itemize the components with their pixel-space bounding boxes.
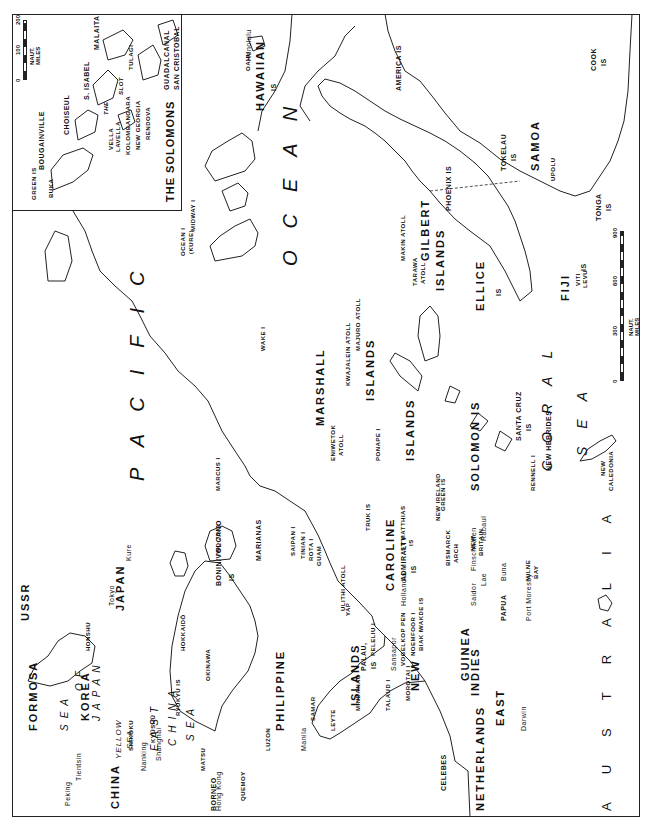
inset-scale-tick-200: 200 (15, 15, 21, 25)
inset-green-is: GREEN IS (31, 167, 37, 200)
label-solomon-is: SOLOMON IS (470, 401, 481, 491)
label-guam: GUAM (316, 546, 322, 566)
label-fiji: FIJI (560, 274, 571, 301)
inset-bougainville-label: BOUGAINVILLE (38, 111, 45, 170)
label-st-matthias-is: IS (408, 539, 414, 546)
label-indies: INDIES (470, 647, 481, 696)
label-ponape: PONAPE I (375, 428, 381, 461)
city-nanking: Nanking (140, 742, 147, 771)
inset-choiseul-label: CHOISEUL (63, 95, 70, 135)
scale-tick-600: 600 (612, 276, 618, 286)
label-pacific: PACIFIC (127, 250, 147, 481)
inset-bougainville (51, 148, 93, 190)
label-upolu: UPOLU (550, 158, 556, 182)
inset-guadalcanal-label: GUADALCANAL (163, 30, 170, 90)
label-vogelkop: VOGELKOP PEN (400, 612, 406, 666)
label-sea-of-japan-3: JAPAN (92, 660, 102, 722)
label-cook: COOK (590, 48, 597, 71)
inset-vella: VELLA (108, 128, 114, 150)
label-peleliu: PELELIU I (370, 623, 376, 656)
label-kwajalein: KWAJALEIN ATOLL (345, 322, 351, 386)
label-kure: (KURE) (188, 230, 194, 254)
label-hawaiian-is: IS (270, 83, 277, 91)
label-samoa: SAMOA (530, 120, 541, 171)
label-levu: LEVU (582, 270, 588, 288)
inset-scale-graphic (23, 20, 27, 80)
label-yap: YAP (345, 603, 351, 616)
label-tokelau: TOKELAU (500, 134, 507, 171)
visayas (222, 183, 248, 211)
label-tarawa: TARAWA (412, 257, 418, 286)
label-marshall: MARSHALL (315, 348, 326, 426)
label-ryukyu: RYUKYU IS (175, 679, 181, 716)
label-marcus: MARCUS I (215, 457, 221, 491)
label-tarawa-atoll: ATOLL (420, 262, 426, 284)
label-new-caledonia: NEW (600, 461, 606, 477)
inset-kolombangara: KOLOMBANGARA (125, 96, 131, 155)
formosa-coast (45, 231, 72, 281)
label-santa-cruz-is: IS (525, 423, 532, 431)
label-bismarck: BISMARCK (445, 530, 451, 566)
mindanao-coast (205, 133, 255, 181)
label-st-matthias: ST MATTHIAS (400, 506, 406, 551)
label-midway: MIDWAY I (190, 200, 196, 231)
label-rennell: RENNELL I (530, 455, 536, 491)
label-noemfoor: NOEMFOOR I (410, 612, 416, 656)
label-sea-of-japan-1: SEA (60, 693, 70, 731)
label-philippine: PHILIPPINE (275, 650, 286, 731)
city-sansapor: Sansapor (390, 637, 397, 671)
label-america-is: AMERICA IS (395, 45, 402, 91)
label-luzon: LUZON (265, 728, 271, 751)
label-palau: PALAU, (360, 642, 367, 671)
label-eniwetok: ENIWETOK (330, 425, 336, 461)
label-new-britain: NEW (470, 536, 476, 552)
label-samar: SAMAR (310, 697, 316, 722)
map-canvas: PACIFIC OCEAN SEA OF JAPAN YELLOW SEA EA… (0, 0, 646, 831)
australia-coast (385, 14, 632, 196)
label-ellice-is: IS (495, 288, 502, 296)
label-yellow-sea-1: YELLOW (115, 720, 123, 759)
label-tonga-is: IS (605, 203, 612, 211)
city-darwin: Darwin (520, 706, 527, 731)
inset-rendova: RENDOVA (145, 107, 151, 140)
scale-bar-graphic (620, 231, 624, 381)
label-eniwetok-atoll: ATOLL (338, 434, 344, 456)
label-australia: AUSTRALIA (600, 487, 613, 811)
label-oahu: OAHU (245, 51, 251, 71)
label-makin: MAKIN ATOLL (400, 215, 406, 261)
label-milne-bay: BAY (533, 565, 539, 579)
label-matsu: MATSU (200, 748, 206, 771)
label-formosa: FORMOSA (28, 661, 39, 731)
label-talaud: TALAUD I (385, 679, 391, 711)
inset-isabel-label: S. ISABEL (83, 61, 90, 100)
inset-scale-tick-0: 0 (15, 79, 21, 82)
inset-scale-tick-100: 100 (15, 45, 21, 55)
label-milne: MILNE (525, 560, 531, 581)
label-caroline-islands: ISLANDS (405, 399, 416, 461)
inset-malaita-label: MALAITA (93, 16, 100, 50)
label-new-britain-2: BRITAIN (478, 529, 484, 556)
label-new-hebrides: NEW HEBRIDES (545, 411, 552, 471)
label-saipan: SAIPAN I (290, 526, 296, 556)
city-buna: Buna (500, 563, 507, 581)
label-hawaiian: HAWAIIAN (255, 40, 266, 111)
label-wake: WAKE I (260, 327, 266, 351)
label-ocean-i: OCEAN I (180, 227, 186, 256)
label-truk: TRUK IS (365, 504, 371, 532)
inset-san-cristobal-label: SAN CRISTOBAL (173, 26, 180, 90)
label-biak: BIAK I (418, 630, 424, 651)
label-tokelau-is: IS (510, 153, 517, 161)
label-celebes: CELEBES (440, 754, 447, 791)
label-viti: VITI (575, 273, 581, 286)
inset-isabel (93, 70, 118, 105)
city-lae: Lae (480, 573, 487, 586)
inset-new-georgia-label: NEW GEORGIA (135, 100, 141, 150)
label-majuro: MAJURO ATOLL (355, 298, 361, 351)
label-papua: PAPUA (500, 595, 507, 621)
label-quemoy: QUEMOY (240, 771, 246, 801)
label-wakde: WAKDE IS (418, 597, 424, 631)
label-coral-sea: SEA (575, 374, 589, 456)
label-netherlands: NETHERLANDS (475, 706, 486, 811)
inset-choiseul (75, 110, 98, 140)
scale-tick-300: 300 (612, 326, 618, 336)
